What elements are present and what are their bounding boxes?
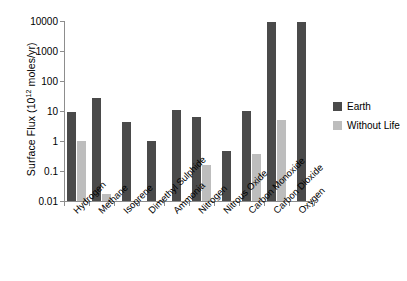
y-axis-title-exponent: 12 xyxy=(25,89,32,97)
x-axis-tick-mark xyxy=(64,202,65,206)
y-axis-title-base: Surface Flux (10 xyxy=(25,97,37,176)
legend-item-without-life: Without Life xyxy=(333,120,407,131)
legend-swatch-icon-earth xyxy=(333,102,342,111)
legend-label-without-life: Without Life xyxy=(347,120,400,131)
bar-group xyxy=(114,21,139,201)
bar-group xyxy=(64,21,89,201)
legend-item-earth: Earth xyxy=(333,101,407,112)
y-axis-tick-label: 10000 xyxy=(30,16,58,27)
y-axis-tick-label: 0.1 xyxy=(44,166,58,177)
bar-earth xyxy=(67,112,76,201)
y-axis-tick-label: 1 xyxy=(52,136,58,147)
bar-group xyxy=(139,21,164,201)
y-axis-tick-label: 100 xyxy=(41,76,58,87)
bar-chart: Surface Flux (1012 moles/yr) 10000100010… xyxy=(0,0,407,281)
bar-without-life xyxy=(77,141,86,201)
legend-swatch-icon-without-life xyxy=(333,121,342,130)
y-axis-tick-label: 0.01 xyxy=(39,196,58,207)
y-axis-tick-label: 10 xyxy=(47,106,58,117)
bar-group xyxy=(214,21,239,201)
y-axis-tick-label: 1000 xyxy=(36,46,58,57)
chart-legend: Earth Without Life xyxy=(333,101,407,139)
bar-group xyxy=(89,21,114,201)
y-axis-title: Surface Flux (1012 moles/yr) xyxy=(25,14,38,204)
legend-label-earth: Earth xyxy=(347,101,371,112)
